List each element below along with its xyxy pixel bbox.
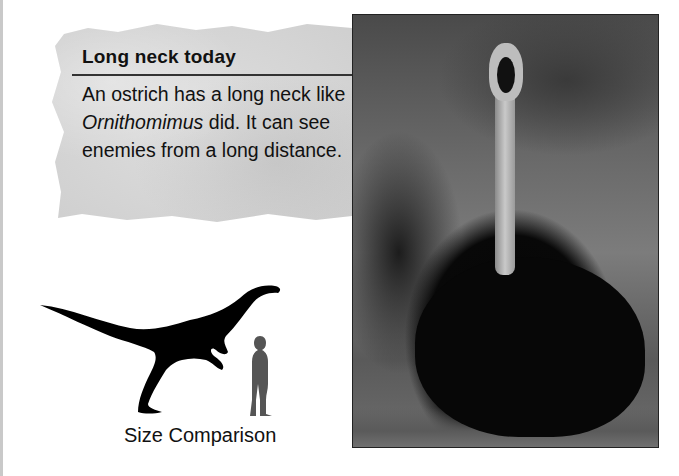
ostrich-body xyxy=(415,257,645,437)
size-comparison-figure xyxy=(30,280,290,420)
human-silhouette-icon xyxy=(250,336,272,416)
sidebar-title: Long neck today xyxy=(82,46,236,68)
sidebar-box: Long neck today An ostrich has a long ne… xyxy=(52,22,352,222)
title-divider xyxy=(72,74,352,76)
size-comparison-caption: Size Comparison xyxy=(124,424,276,447)
page-edge xyxy=(0,0,3,476)
body-text-italic: Ornithomimus xyxy=(82,111,203,133)
ostrich-neck xyxy=(495,75,515,275)
body-text-1: An ostrich has a long neck like xyxy=(82,83,345,105)
sidebar-body: An ostrich has a long neck like Ornithom… xyxy=(82,80,347,164)
ornithomimus-silhouette-icon xyxy=(40,286,280,414)
ostrich-photo xyxy=(352,14,659,448)
ostrich-open-beak xyxy=(497,57,515,93)
